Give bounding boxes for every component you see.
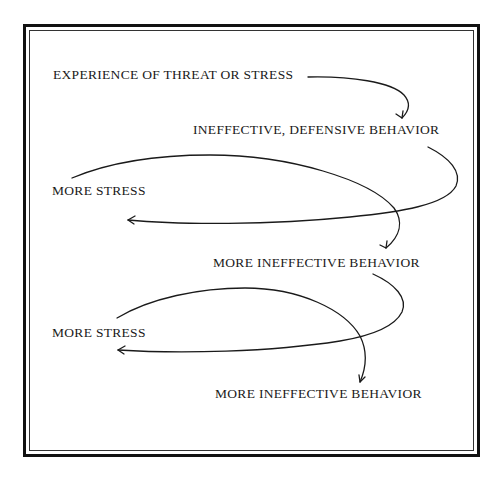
arrow-more-stress-2-to-more-ineffective-2 xyxy=(117,288,365,382)
arrow-defensive-to-more-stress-1 xyxy=(128,147,458,224)
arrow-experience-to-defensive xyxy=(308,77,408,118)
arrow-layer xyxy=(0,0,504,478)
arrow-more-stress-1-to-more-ineffective-1 xyxy=(72,155,400,248)
arrow-more-ineffective-1-to-more-stress-2 xyxy=(118,274,403,354)
